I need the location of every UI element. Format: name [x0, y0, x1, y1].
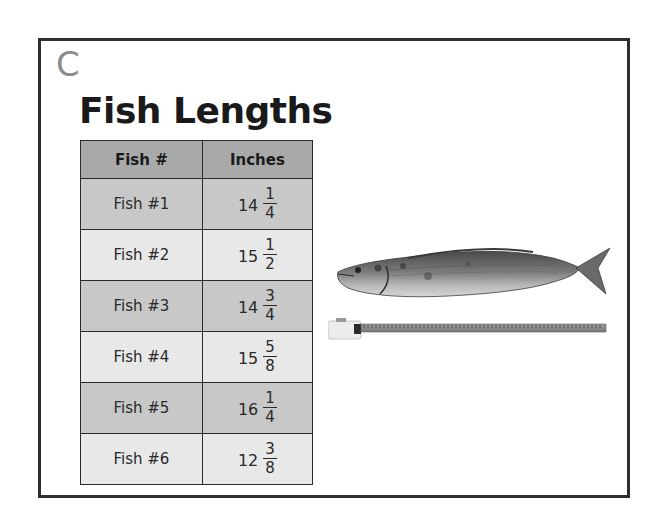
numerator: 1	[263, 238, 277, 255]
denominator: 4	[265, 408, 275, 425]
column-header-fish: Fish #	[81, 141, 203, 179]
fish-icon	[337, 248, 610, 297]
whole-part: 15	[238, 247, 258, 266]
fish-id-cell: Fish #6	[81, 434, 203, 485]
denominator: 8	[265, 459, 275, 476]
whole-part: 14	[238, 298, 258, 317]
mixed-number: 12 3 8	[238, 442, 277, 476]
whole-part: 12	[238, 451, 258, 470]
whole-part: 14	[238, 196, 258, 215]
whole-part: 16	[238, 400, 258, 419]
page-title: Fish Lengths	[79, 93, 333, 129]
table-row: Fish #1 14 1 4	[81, 179, 313, 230]
denominator: 8	[265, 357, 275, 374]
panel-label: C	[56, 47, 80, 81]
numerator: 1	[263, 391, 277, 408]
worksheet-panel: C Fish Lengths Fish # Inches Fish #1 14 …	[38, 38, 630, 498]
fish-lengths-table: Fish # Inches Fish #1 14 1 4 Fis	[80, 140, 313, 485]
fraction: 5 8	[263, 340, 277, 374]
whole-part: 15	[238, 349, 258, 368]
length-cell: 12 3 8	[202, 434, 312, 485]
length-cell: 15 5 8	[202, 332, 312, 383]
fish-photo	[328, 236, 613, 346]
column-header-inches: Inches	[202, 141, 312, 179]
table-row: Fish #2 15 1 2	[81, 230, 313, 281]
mixed-number: 16 1 4	[238, 391, 277, 425]
mixed-number: 14 3 4	[238, 289, 277, 323]
fish-id-cell: Fish #3	[81, 281, 203, 332]
mixed-number: 15 1 2	[238, 238, 277, 272]
numerator: 3	[263, 289, 277, 306]
fraction: 1 2	[263, 238, 277, 272]
fish-id-cell: Fish #2	[81, 230, 203, 281]
denominator: 4	[265, 306, 275, 323]
mixed-number: 15 5 8	[238, 340, 277, 374]
fish-id-cell: Fish #4	[81, 332, 203, 383]
numerator: 1	[263, 187, 277, 204]
table-row: Fish #4 15 5 8	[81, 332, 313, 383]
table-row: Fish #5 16 1 4	[81, 383, 313, 434]
fraction: 3 8	[263, 442, 277, 476]
fraction: 1 4	[263, 187, 277, 221]
table-row: Fish #3 14 3 4	[81, 281, 313, 332]
numerator: 5	[263, 340, 277, 357]
fish-id-cell: Fish #5	[81, 383, 203, 434]
length-cell: 14 1 4	[202, 179, 312, 230]
mixed-number: 14 1 4	[238, 187, 277, 221]
measuring-tape-icon	[328, 318, 606, 339]
fish-id-cell: Fish #1	[81, 179, 203, 230]
length-cell: 15 1 2	[202, 230, 312, 281]
table-header-row: Fish # Inches	[81, 141, 313, 179]
numerator: 3	[263, 442, 277, 459]
denominator: 2	[265, 255, 275, 272]
length-cell: 14 3 4	[202, 281, 312, 332]
length-cell: 16 1 4	[202, 383, 312, 434]
denominator: 4	[265, 204, 275, 221]
fraction: 1 4	[263, 391, 277, 425]
fraction: 3 4	[263, 289, 277, 323]
table-row: Fish #6 12 3 8	[81, 434, 313, 485]
